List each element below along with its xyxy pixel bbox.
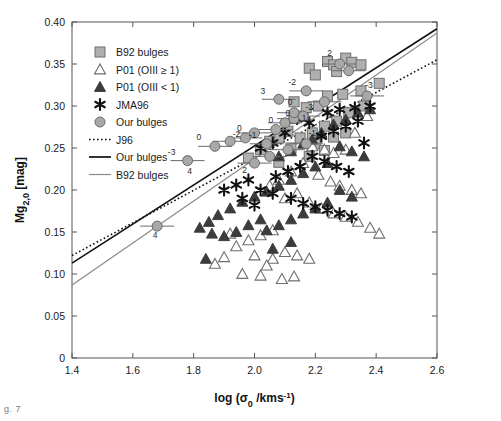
marker-circle xyxy=(274,94,284,104)
marker-circle xyxy=(301,86,311,96)
legend-label: B92 bulges xyxy=(116,46,169,58)
y-axis-label: Mg2,0 [mag] xyxy=(13,157,31,223)
scatter-plot: 1.41.61.82.02.22.42.600.050.100.150.200.… xyxy=(0,0,501,421)
marker-circle xyxy=(262,139,272,149)
data-point-label: -3 xyxy=(365,80,373,90)
data-point-label: 2 xyxy=(242,165,247,175)
legend-label: Our bulges xyxy=(116,116,167,128)
y-tick-label: 0.30 xyxy=(45,100,66,112)
marker-circle xyxy=(335,59,345,69)
data-point-label: 0 xyxy=(286,108,291,118)
x-tick-label: 1.6 xyxy=(126,364,141,376)
marker-square xyxy=(310,70,320,80)
data-point-label: 3 xyxy=(260,86,265,96)
marker-circle xyxy=(283,145,293,155)
x-tick-label: 2.0 xyxy=(247,364,262,376)
data-point-label: 0 xyxy=(288,97,293,107)
legend-label: JMA96 xyxy=(116,99,149,111)
marker-circle xyxy=(280,118,290,128)
figure-panel: 1.41.61.82.02.22.42.600.050.100.150.200.… xyxy=(0,0,501,421)
data-point-label: 4 xyxy=(187,166,192,176)
marker-square xyxy=(374,78,384,88)
marker-circle xyxy=(271,125,281,135)
y-tick-label: 0.15 xyxy=(45,226,66,238)
data-point-label: 4 xyxy=(153,230,158,240)
marker-circle xyxy=(250,158,260,168)
figure-caption: g. 7 xyxy=(4,404,21,414)
data-point-label: 2 xyxy=(327,48,332,58)
y-tick-label: 0.20 xyxy=(45,184,66,196)
data-point-label: 1 xyxy=(302,113,307,123)
data-point-label: 0 xyxy=(197,132,202,142)
marker-circle xyxy=(265,151,275,161)
y-tick-label: 0 xyxy=(59,352,65,364)
legend-label: Our bulges xyxy=(116,151,167,163)
data-point-label: 2 xyxy=(278,152,283,162)
marker-circle xyxy=(210,141,220,151)
legend-label: P01 (OIII ≥ 1) xyxy=(116,64,179,76)
x-tick-label: 2.4 xyxy=(369,364,384,376)
marker-square xyxy=(95,47,105,57)
marker-circle xyxy=(344,66,354,76)
marker-circle xyxy=(319,97,329,107)
x-axis-label: log (σ0 /kms-1) xyxy=(214,391,294,410)
marker-circle xyxy=(289,108,299,118)
x-tick-label: 2.2 xyxy=(308,364,323,376)
legend-label: P01 (OIII < 1) xyxy=(116,81,179,93)
x-tick-label: 1.8 xyxy=(186,364,201,376)
x-tick-label: 2.6 xyxy=(430,364,445,376)
data-point-label: -2 xyxy=(233,129,241,139)
y-tick-label: 0.25 xyxy=(45,142,66,154)
data-point-label: 0 xyxy=(268,115,273,125)
marker-square xyxy=(338,89,348,99)
data-point-label: -1 xyxy=(308,128,316,138)
marker-square xyxy=(356,60,366,70)
marker-circle xyxy=(301,139,311,149)
data-point-label: -1 xyxy=(249,130,257,140)
y-tick-label: 0.10 xyxy=(45,268,66,280)
marker-circle xyxy=(362,91,372,101)
y-tick-label: 0.05 xyxy=(45,310,66,322)
y-tick-label: 0.40 xyxy=(45,16,66,28)
legend-label: B92 bulges xyxy=(116,169,169,181)
data-point-label: -2 xyxy=(288,77,296,87)
y-tick-label: 0.35 xyxy=(45,58,66,70)
marker-circle xyxy=(183,156,193,166)
legend-label: J96 xyxy=(116,134,133,146)
data-point-label: -2 xyxy=(305,102,313,112)
x-tick-label: 1.4 xyxy=(65,364,80,376)
data-point-label: -3 xyxy=(168,147,176,157)
marker-circle xyxy=(95,117,105,127)
